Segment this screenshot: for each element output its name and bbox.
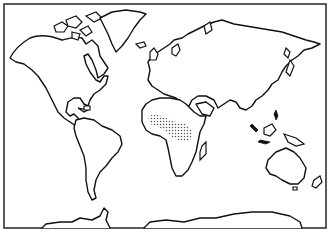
arctic-island xyxy=(66,16,82,28)
new-zealand xyxy=(312,176,322,188)
tasmania xyxy=(293,187,297,190)
antarctica-west xyxy=(42,208,110,228)
philippines xyxy=(274,110,278,120)
new-guinea xyxy=(284,134,304,146)
arabian-peninsula xyxy=(196,102,214,116)
arctic-island xyxy=(72,32,80,40)
arctic-island xyxy=(86,12,102,22)
java xyxy=(258,140,270,144)
arctic-island xyxy=(80,26,92,36)
south-america xyxy=(74,118,122,200)
borneo xyxy=(264,124,276,136)
antarctica-east xyxy=(144,212,302,228)
australia xyxy=(266,148,306,184)
arctic-island xyxy=(54,22,68,32)
world-map xyxy=(0,0,329,232)
world-map-svg xyxy=(0,0,329,232)
madagascar xyxy=(200,142,206,160)
north-america xyxy=(10,36,108,126)
caribbean-island xyxy=(84,106,90,110)
sumatra xyxy=(250,124,258,132)
british-isles xyxy=(150,48,158,60)
europe-asia xyxy=(148,20,320,110)
iceland xyxy=(136,42,146,48)
